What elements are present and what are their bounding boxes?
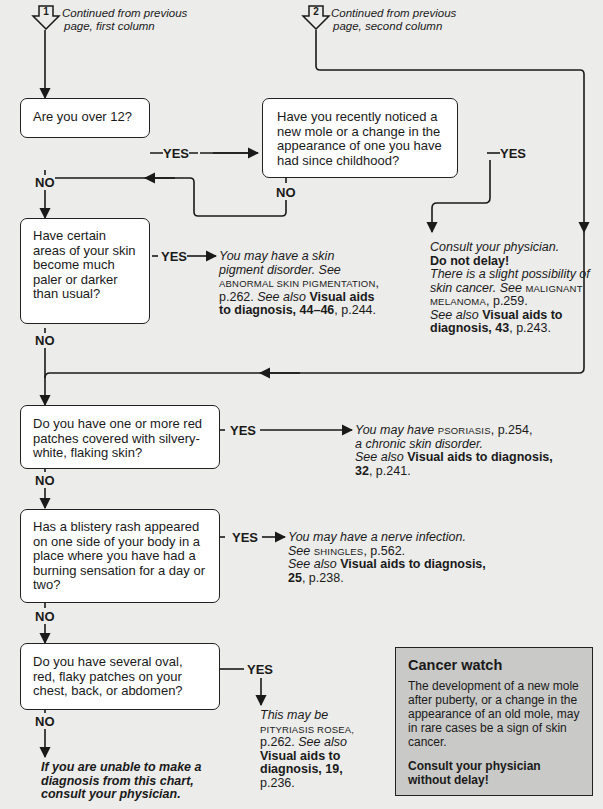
outcome-pigment-disorder: You may have a skin pigment disorder. Se… [219,250,379,318]
yes-label: YES [232,531,258,545]
outcome-shingles: You may have a nerve infection. See SHIN… [288,531,488,585]
visual-aids-page: , p.244. [334,303,376,317]
question-box-blistery-rash[interactable]: Has a blistery rash appeared on one side… [20,509,220,603]
question-box-over-12[interactable]: Are you over 12? [20,98,150,138]
exclamation: ! [505,254,509,268]
reference-link[interactable]: SHINGLES [314,546,364,557]
continuation-label-2: Continued from previous page, second col… [331,7,456,33]
no-label: NO [35,610,55,624]
yes-label: YES [163,147,189,161]
see-also-label: See also [355,450,404,464]
question-text: Has a blistery rash appeared on one side… [33,519,205,592]
reference-link[interactable]: ABNORMAL SKIN PIGMENTATION [219,278,376,289]
see-also-label: See also [257,290,306,304]
fallback-text: If you are unable to make a diagnosis fr… [41,760,201,801]
visual-aids-page: , p.241. [369,464,411,478]
question-text: Have you recently noticed a new mole or … [277,109,442,168]
continuation-line: Continued from previous [331,7,456,20]
outcome-text: You may have [355,423,434,437]
yes-label: YES [161,250,187,264]
flowchart: 1 Continued from previous page, first co… [0,0,603,809]
yes-label: YES [500,147,526,161]
callout-cta-text: Consult your physician without delay [408,759,541,787]
continuation-marker-1: 1 [31,4,61,30]
outcome-text: a chronic skin disorder. [355,438,555,452]
see-also-label: See also [288,557,337,571]
callout-body: The development of a new mole after pube… [408,679,580,749]
reference-link[interactable]: PSORIASIS [438,425,491,436]
callout-title: Cancer watch [408,657,580,673]
reference-link[interactable]: PITYRIASIS ROSEA, [260,723,355,737]
no-label: NO [35,334,55,348]
outcome-pityriasis-rosea: This may be PITYRIASIS ROSEA, p.262. See… [260,709,355,790]
question-box-new-mole[interactable]: Have you recently noticed a new mole or … [262,98,458,178]
continuation-marker-2: 2 [301,4,331,30]
no-label: NO [35,715,55,729]
outcome-psoriasis: You may have PSORIASIS, p.254, a chronic… [355,424,555,478]
no-label: NO [276,186,296,200]
continuation-line: page, second column [331,20,456,33]
see-also-label: See also [298,735,347,749]
question-box-skin-color[interactable]: Have certain areas of your skin become m… [20,218,150,324]
no-label: NO [35,176,55,190]
question-box-oval-patches[interactable]: Do you have several oval, red, flaky pat… [20,643,220,710]
reference-page: , p.254, [491,423,533,437]
visual-aids-page: , p.243. [509,321,551,335]
reference-page: p.262. [260,735,295,749]
continuation-number: 2 [311,6,321,17]
continuation-line: page, first column [62,20,187,33]
continuation-label-1: Continued from previous page, first colu… [62,7,187,33]
outcome-text: This may be [260,709,355,723]
outcome-text: You may have a nerve infection. [288,531,488,545]
exclamation: ! [485,773,489,787]
question-text: Do you have several oval, red, flaky pat… [33,654,183,698]
reference-page: , p.259. [486,294,528,308]
continuation-line: Continued from previous [62,7,187,20]
no-label: NO [35,474,55,488]
outcome-text: You may have a skin pigment disorder. Se… [219,249,341,277]
question-text: Do you have one or more red patches cove… [33,416,202,460]
question-text: Have certain areas of your skin become m… [33,228,136,301]
reference-page: , p.562. [363,544,405,558]
visual-aids-page: p.236. [260,777,355,791]
yes-label: YES [230,424,256,438]
see-also-label: See also [430,308,479,322]
visual-aids-page: , p.238. [302,571,344,585]
outcome-emphasis: Do not delay [430,254,505,268]
yes-label: YES [247,663,273,677]
outcome-melanoma: Consult your physician. Do not delay! Th… [430,241,590,336]
continuation-number: 1 [41,6,51,17]
outcome-text: Consult your physician. [430,241,590,255]
see-label: See [288,544,310,558]
cancer-watch-callout: Cancer watch The development of a new mo… [395,647,593,796]
visual-aids-link[interactable]: Visual aids to diagnosis, 19, [260,750,355,777]
outcome-fallback: If you are unable to make a diagnosis fr… [41,761,216,802]
question-box-red-patches[interactable]: Do you have one or more red patches cove… [20,405,220,469]
question-text: Are you over 12? [33,109,132,124]
callout-cta: Consult your physician without delay! [408,759,580,787]
